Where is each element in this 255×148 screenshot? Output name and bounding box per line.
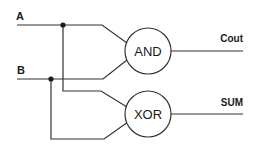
input-a-label: A xyxy=(16,10,24,22)
wire-a-to-xor xyxy=(63,25,127,107)
and-gate-label: AND xyxy=(134,44,161,59)
input-b-label: B xyxy=(17,64,25,76)
wire-b-to-and xyxy=(17,60,127,79)
half-adder-diagram: AND XOR A B Cout SUM xyxy=(0,0,255,148)
junction-a xyxy=(60,22,65,27)
xor-gate: XOR xyxy=(125,91,171,137)
wire-a-to-and xyxy=(17,25,127,43)
output-sum-label: SUM xyxy=(221,97,243,108)
and-gate: AND xyxy=(125,28,171,74)
junction-b xyxy=(48,76,53,81)
xor-gate-label: XOR xyxy=(134,107,162,122)
output-cout-label: Cout xyxy=(220,33,243,44)
